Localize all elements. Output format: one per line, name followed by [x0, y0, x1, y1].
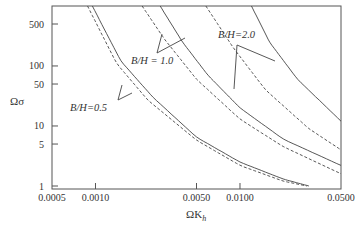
leader-line	[157, 34, 185, 53]
x-axis-title: ΩKh	[186, 208, 206, 223]
plot-frame	[52, 6, 341, 189]
y-tick-label: 500	[29, 19, 44, 30]
y-tick-label: 100	[29, 60, 44, 71]
x-tick-label: 0.0010	[82, 192, 110, 203]
curve-label: B/H=2.0	[218, 29, 256, 40]
curve-b-h-2-0-solid-	[251, 6, 341, 121]
curve-b-h-2-0-dashed-	[206, 6, 341, 150]
y-tick-label: 10	[34, 120, 44, 131]
x-axis-title-main: ΩK	[186, 208, 202, 220]
curve-b-h-0-5-dashed-	[88, 6, 307, 186]
y-axis: 151050100500	[29, 19, 58, 192]
curve-label: B/H=0.5	[70, 102, 107, 113]
x-tick-label: 0.0100	[226, 192, 254, 203]
x-tick-label: 0.0050	[183, 192, 211, 203]
annotations: B/H=0.5B/H = 1.0B/H=2.0	[70, 29, 275, 113]
leader-line	[234, 45, 275, 89]
curve-b-h-0-5-solid-	[92, 6, 309, 186]
x-tick-label: 0.0500	[327, 192, 355, 203]
y-tick-label: 5	[39, 139, 44, 150]
leader-line	[118, 85, 132, 100]
y-axis-title: Ωσ	[10, 95, 24, 107]
x-tick-label: 0.0005	[38, 192, 66, 203]
chart-canvas: 151050100500 0.00050.00100.00500.01000.0…	[0, 0, 359, 225]
y-tick-label: 50	[34, 79, 44, 90]
curve-label: B/H = 1.0	[131, 55, 174, 66]
y-tick-label: 1	[39, 181, 44, 192]
x-axis-title-subscript: h	[202, 214, 206, 223]
